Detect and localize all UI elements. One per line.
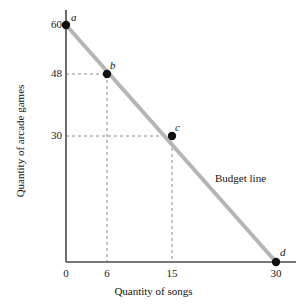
y-tick-label-48: 48	[36, 67, 62, 79]
data-point-d	[272, 258, 280, 266]
x-tick-label-6: 6	[95, 267, 119, 279]
point-label-a: a	[71, 11, 77, 23]
data-point-c	[168, 132, 176, 140]
point-label-b: b	[110, 59, 116, 71]
point-label-c: c	[175, 121, 180, 133]
data-point-a	[62, 21, 70, 29]
data-point-b	[103, 70, 111, 78]
budget-line-series	[66, 25, 276, 262]
chart-plot-area	[0, 0, 307, 305]
budget-line-annotation: Budget line	[215, 172, 266, 184]
x-tick-label-30: 30	[264, 267, 288, 279]
x-axis-title: Quantity of songs	[0, 285, 307, 297]
y-tick-label-30: 30	[36, 129, 62, 141]
point-label-d: d	[280, 246, 286, 258]
budget-line-chart: 60 48 30 0 6 15 30 a b c d Budget line Q…	[0, 0, 307, 305]
y-axis-title: Quantity of arcade games	[14, 51, 26, 231]
x-tick-label-0: 0	[54, 267, 78, 279]
x-tick-label-15: 15	[160, 267, 184, 279]
y-tick-label-60: 60	[36, 18, 62, 30]
